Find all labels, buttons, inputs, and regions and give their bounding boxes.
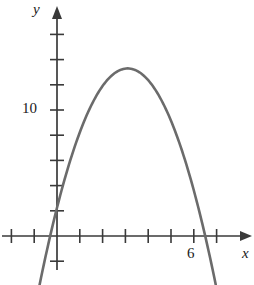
- x-axis-label: x: [242, 246, 249, 261]
- x-tick-label-6: 6: [187, 246, 195, 261]
- y-axis-label: y: [33, 2, 40, 17]
- parabola-chart-figure: y x 10 6: [0, 0, 254, 285]
- x-axis-arrowhead: [240, 231, 252, 241]
- y-tick-label-10: 10: [22, 101, 37, 116]
- y-axis-arrowhead: [52, 6, 62, 19]
- plot-area: [0, 0, 254, 285]
